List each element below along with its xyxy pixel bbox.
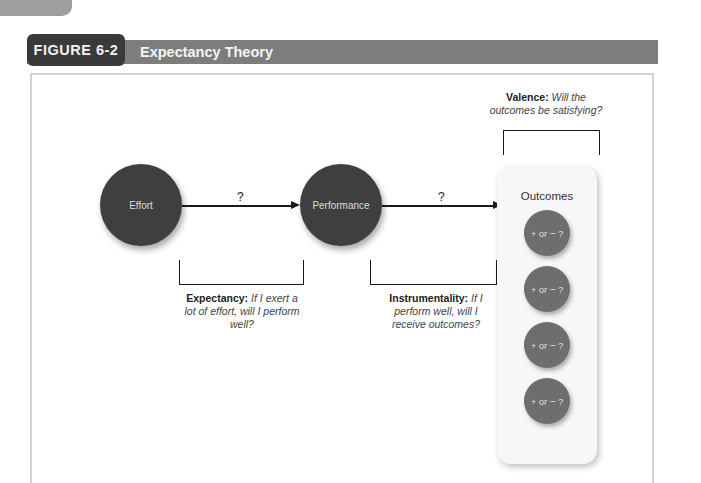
outcome-item: + or − ?: [524, 378, 570, 424]
performance-to-outcomes-arrow: [382, 205, 494, 207]
expectancy-term: Expectancy:: [186, 292, 248, 304]
effort-node: Effort: [100, 164, 182, 246]
arrowhead-icon: [291, 201, 300, 209]
effort-label: Effort: [129, 200, 153, 211]
performance-label: Performance: [312, 200, 369, 211]
instrumentality-term: Instrumentality:: [389, 292, 468, 304]
expectancy-question-mark: ?: [237, 190, 244, 204]
expectancy-bracket: [179, 260, 304, 285]
outcome-item: + or − ?: [524, 266, 570, 312]
effort-to-performance-arrow: [182, 205, 292, 207]
figure-title: Expectancy Theory: [140, 40, 273, 64]
instrumentality-caption: Instrumentality: If I perform well, will…: [386, 292, 486, 331]
figure-label: FIGURE 6-2: [27, 34, 125, 66]
valence-caption: Valence: Will the outcomes be satisfying…: [483, 91, 609, 117]
performance-node: Performance: [300, 164, 382, 246]
outcomes-title: Outcomes: [497, 190, 597, 202]
expectancy-caption: Expectancy: If I exert a lot of effort, …: [180, 292, 304, 331]
page-corner-tab: [0, 0, 72, 16]
outcome-item: + or − ?: [524, 210, 570, 256]
outcome-item: + or − ?: [524, 322, 570, 368]
valence-bracket: [503, 130, 600, 155]
instrumentality-question-mark: ?: [438, 190, 445, 204]
valence-term: Valence:: [506, 91, 549, 103]
instrumentality-bracket: [370, 260, 497, 285]
